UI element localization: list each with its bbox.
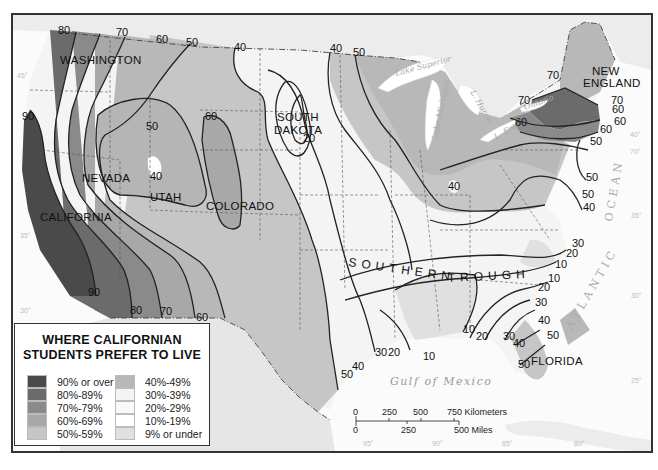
isoline-value-label: 50 xyxy=(590,135,602,147)
legend-label: 40%-49% xyxy=(145,376,191,388)
legend-label: 50%-59% xyxy=(57,428,103,440)
isoline-value-label: 40 xyxy=(583,201,595,213)
label-utah: UTAH xyxy=(150,191,182,203)
legend-label: 30%-39% xyxy=(145,389,191,401)
legend-item: 40%-49% xyxy=(115,375,203,388)
isoline-value-label: 80 xyxy=(58,24,70,36)
label-washington: WASHINGTON xyxy=(60,54,142,66)
isoline-value-label: 40 xyxy=(448,180,460,192)
label-new-england-line2: ENGLAND xyxy=(583,77,641,89)
isoline-value-label: 10 xyxy=(555,258,567,270)
isoline-value-label: 50 xyxy=(146,120,158,132)
legend-item: 9% or under xyxy=(115,427,203,440)
isoline-value-label: 60 xyxy=(515,116,527,128)
scale-mi-250: 250 xyxy=(401,425,416,435)
degree-label: 25° xyxy=(631,377,642,384)
degree-label: 35° xyxy=(20,232,31,239)
label-new-england-line1: NEW xyxy=(592,65,620,77)
legend-label: 70%-79% xyxy=(57,402,103,414)
isoline-value-label: 40 xyxy=(330,42,342,54)
legend-label: 90% or over xyxy=(57,376,114,388)
isoline-value-label: 50 xyxy=(547,329,559,341)
isoline-value-label: 60 xyxy=(156,33,168,45)
legend-label: 60%-69% xyxy=(57,415,103,427)
scale-km-750: 750 Kilometers xyxy=(447,407,508,417)
scale-km-250: 250 xyxy=(382,407,397,417)
degree-label: 40° xyxy=(630,131,641,138)
isoline-value-label: 60 xyxy=(612,103,624,115)
legend-swatch xyxy=(27,388,47,401)
label-california: CALIFORNIA xyxy=(40,211,112,223)
scale-mi-0: 0 xyxy=(353,425,358,435)
isoline-value-label: 70 xyxy=(547,69,559,81)
degree-label: 85° xyxy=(502,440,513,447)
legend-label: 20%-29% xyxy=(145,402,191,414)
legend-title-line1: WHERE CALIFORNIAN xyxy=(15,333,209,348)
isoline-value-label: 40 xyxy=(538,314,550,326)
legend-column-right: 40%-49% 30%-39% 20%-29% 10%-19% 9% or un… xyxy=(115,375,203,440)
legend-label: 80%-89% xyxy=(57,389,103,401)
isoline-value-label: 50 xyxy=(582,188,594,200)
isoline-value-label: 90 xyxy=(22,110,34,122)
label-nevada: NEVADA xyxy=(82,172,130,184)
legend-swatch xyxy=(115,427,135,440)
legend-swatch xyxy=(115,388,135,401)
isoline-value-label: 60 xyxy=(196,311,208,323)
label-florida: FLORIDA xyxy=(531,355,583,367)
degree-label: 90° xyxy=(432,440,443,447)
legend-item: 90% or over xyxy=(27,375,115,388)
label-colorado: COLORADO xyxy=(206,200,274,212)
degree-label: 45° xyxy=(17,72,28,79)
scale-km-500: 500 xyxy=(413,407,428,417)
map-legend: WHERE CALIFORNIAN STUDENTS PREFER TO LIV… xyxy=(14,323,210,446)
degree-label: 95° xyxy=(363,440,374,447)
isoline-value-label: 60 xyxy=(614,115,626,127)
isoline-value-label: 50 xyxy=(186,36,198,48)
isoline-value-label: 20 xyxy=(388,346,400,358)
isoline-value-label: 20 xyxy=(303,132,315,144)
degree-label: 30° xyxy=(20,307,31,314)
legend-item: 50%-59% xyxy=(27,427,115,440)
legend-swatch xyxy=(27,414,47,427)
legend-item: 30%-39% xyxy=(115,388,203,401)
isoline-value-label: 40 xyxy=(150,170,162,182)
isoline-value-label: 10 xyxy=(423,350,435,362)
legend-title-line2: STUDENTS PREFER TO LIVE xyxy=(15,348,209,363)
isoline-value-label: 60 xyxy=(600,123,612,135)
legend-column-left: 90% or over 80%-89% 70%-79% 60%-69% 50%-… xyxy=(27,375,115,440)
degree-label: 30° xyxy=(631,292,642,299)
legend-item: 80%-89% xyxy=(27,388,115,401)
isoline-value-label: 50 xyxy=(586,171,598,183)
isoline-value-label: 70 xyxy=(160,305,172,317)
legend-swatch xyxy=(115,401,135,414)
scale-mi-500: 500 Miles xyxy=(454,425,493,435)
legend-item: 70%-79% xyxy=(27,401,115,414)
degree-label: 70° xyxy=(630,148,641,155)
isoline-value-label: 50 xyxy=(518,358,530,370)
isoline-value-label: 30 xyxy=(503,330,515,342)
isoline-value-label: 30 xyxy=(535,296,547,308)
legend-swatch xyxy=(115,375,135,388)
isoline-value-label: 70 xyxy=(518,94,530,106)
isoline-value-label: 40 xyxy=(234,41,246,53)
isoline-value-label: 70 xyxy=(116,26,128,38)
legend-item: 20%-29% xyxy=(115,401,203,414)
isoline-value-label: 90 xyxy=(88,286,100,298)
label-south-dakota-line1: SOUTH xyxy=(277,111,319,123)
isoline-value-label: 50 xyxy=(341,368,353,380)
legend-item: 60%-69% xyxy=(27,414,115,427)
legend-swatch xyxy=(27,427,47,440)
legend-label: 9% or under xyxy=(145,428,202,440)
degree-label: 80° xyxy=(574,440,585,447)
legend-item: 10%-19% xyxy=(115,414,203,427)
legend-swatch xyxy=(27,401,47,414)
isoline-value-label: 40 xyxy=(352,360,364,372)
isoline-value-label: 30 xyxy=(375,346,387,358)
isoline-value-label: 10 xyxy=(463,323,475,335)
legend-swatch xyxy=(27,375,47,388)
isoline-value-label: 20 xyxy=(476,330,488,342)
isoline-value-label: 20 xyxy=(566,247,578,259)
legend-swatch xyxy=(115,414,135,427)
isoline-value-label: 60 xyxy=(205,110,217,122)
legend-title: WHERE CALIFORNIAN STUDENTS PREFER TO LIV… xyxy=(15,333,209,363)
